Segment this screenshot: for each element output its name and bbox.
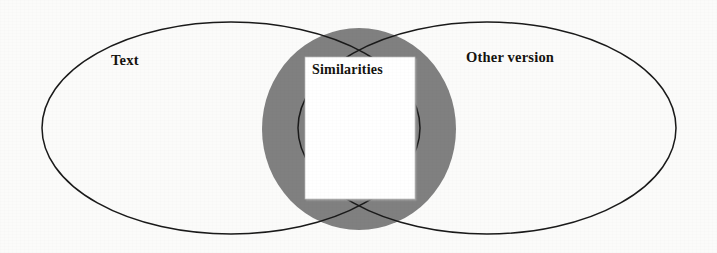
- set-label-left: Text: [111, 53, 139, 68]
- venn-diagram: Text Other version Similarities: [0, 0, 717, 253]
- venn-diagram-canvas: [0, 0, 717, 253]
- set-label-right: Other version: [466, 50, 554, 65]
- intersection-label: Similarities: [312, 63, 383, 77]
- similarities-card: [305, 57, 415, 199]
